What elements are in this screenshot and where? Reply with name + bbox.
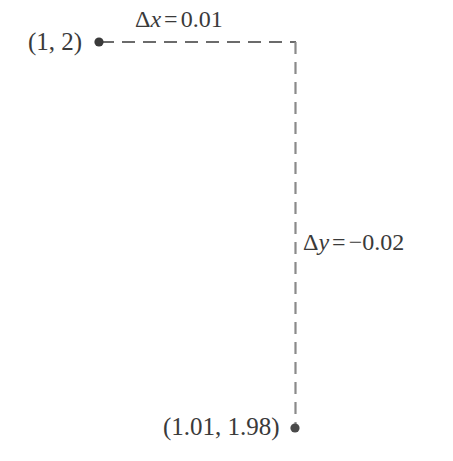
delta-x-value: 0.01 bbox=[181, 6, 223, 32]
point-label-start: (1, 2) bbox=[28, 27, 82, 57]
delta-y-symbol: Δ bbox=[303, 229, 318, 255]
delta-diagram-figure: (1, 2) (1.01, 1.98) Δx=0.01 Δy=−0.02 bbox=[0, 0, 453, 461]
delta-y-label: Δy=−0.02 bbox=[303, 228, 404, 256]
delta-x-operator: = bbox=[161, 6, 181, 32]
delta-y-variable: y bbox=[318, 229, 329, 255]
point-marker-end bbox=[290, 423, 299, 432]
point-label-end: (1.01, 1.98) bbox=[163, 412, 280, 442]
delta-y-operator: = bbox=[329, 229, 349, 255]
point-marker-start bbox=[94, 37, 103, 46]
delta-x-variable: x bbox=[150, 6, 161, 32]
delta-x-label: Δx=0.01 bbox=[135, 5, 223, 33]
delta-x-symbol: Δ bbox=[135, 6, 150, 32]
delta-y-value: −0.02 bbox=[349, 229, 405, 255]
